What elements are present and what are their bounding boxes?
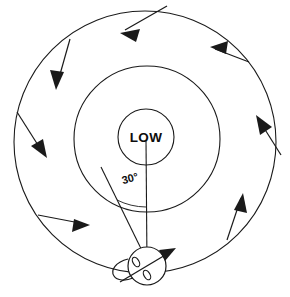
angle-arc-30deg xyxy=(117,200,146,207)
wind-arrow-sw xyxy=(38,215,90,232)
wind-arrow-nw-head xyxy=(50,70,64,90)
low-center-label: LOW xyxy=(130,130,162,145)
wind-arrow-w-head xyxy=(31,139,47,158)
angle-label: 30° xyxy=(120,170,139,186)
figure-canvas: LOW 30° xyxy=(0,0,290,297)
low-pressure-circulation-diagram: LOW 30° xyxy=(0,0,290,297)
wind-arrow-e xyxy=(256,115,281,155)
wind-arrow-e-head xyxy=(256,115,272,135)
wind-arrow-n-head xyxy=(120,29,140,42)
wind-arrow-se xyxy=(227,193,247,240)
station-model xyxy=(113,247,176,285)
wind-arrow-n-shaft xyxy=(125,6,167,30)
wind-arrow-se-head xyxy=(234,193,247,213)
wind-arrow-ne xyxy=(210,41,249,62)
wind-arrow-sw-head xyxy=(72,219,90,232)
wind-arrow-w xyxy=(17,112,47,158)
wind-arrow-nw xyxy=(50,39,70,90)
wind-arrow-ne-head xyxy=(210,41,228,54)
